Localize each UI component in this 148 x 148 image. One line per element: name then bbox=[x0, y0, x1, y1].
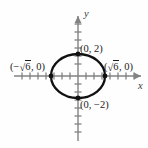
y-axis-label: y bbox=[84, 9, 89, 20]
right-label-close: , 0) bbox=[119, 61, 133, 72]
radical-sign-icon: √ bbox=[19, 62, 25, 73]
left-label-open-paren: (− bbox=[10, 61, 19, 72]
left-label-radical: √6 bbox=[19, 60, 31, 73]
x-axis-arrowhead bbox=[134, 73, 141, 80]
left-label-close: , 0) bbox=[31, 61, 45, 72]
point-label-left-vertex: (−√6, 0) bbox=[10, 60, 45, 73]
left-label-radicand: 6 bbox=[25, 60, 31, 72]
right-label-radicand: 6 bbox=[113, 60, 119, 72]
coordinate-plane-svg bbox=[0, 0, 148, 148]
x-axis-label: x bbox=[138, 81, 143, 92]
vertex-dot-left bbox=[49, 74, 54, 79]
point-label-top-vertex: (0, 2) bbox=[80, 44, 103, 55]
right-label-radical: √6 bbox=[108, 60, 120, 73]
point-label-bottom-vertex: (0, −2) bbox=[80, 100, 109, 111]
y-axis-arrowhead bbox=[75, 16, 82, 23]
vertex-dot-right bbox=[103, 74, 108, 79]
radical-sign-icon: √ bbox=[108, 62, 114, 73]
ellipse-graph-figure: y x (0, 2) (0, −2) (−√6, 0) (√6, 0) bbox=[0, 0, 148, 148]
point-label-right-vertex: (√6, 0) bbox=[104, 60, 133, 73]
